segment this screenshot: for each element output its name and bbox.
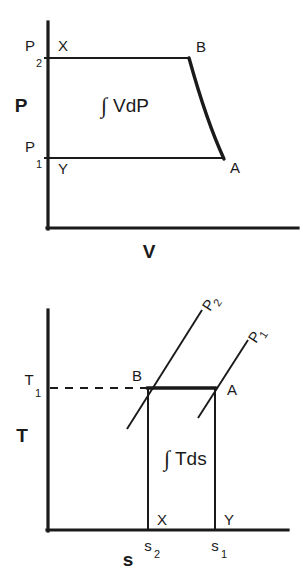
temperature-entropy-diagram: T 1 B A X Y s 2 s 1 P 2 [16, 292, 288, 570]
ts-tick-t1: T 1 [24, 371, 41, 399]
ts-point-y-label: Y [224, 511, 234, 528]
pv-y-axis-label: P [15, 95, 28, 116]
pv-x-axis-label: V [143, 241, 156, 262]
ts-integrand-text: Tds [175, 448, 207, 469]
ts-y-axis-label: T [16, 425, 28, 446]
pv-tick-p1-subscript: 1 [36, 158, 42, 170]
ts-tick-s2: s 2 [144, 537, 160, 560]
ts-isobar-p2-label: P 2 [198, 292, 224, 316]
pv-tick-p2-subscript: 2 [36, 57, 42, 69]
ts-point-a-label: A [227, 381, 237, 398]
pv-tick-p1: P 1 [25, 138, 42, 170]
ts-isobar-p1-label: P 1 [244, 324, 270, 348]
ts-tick-s2-base: s [144, 537, 152, 554]
pv-expansion-curve [189, 58, 224, 159]
figure-canvas: P 2 P 1 X Y B A P V ∫ VdP [0, 0, 303, 580]
ts-integral-sign: ∫ [162, 446, 172, 472]
ts-point-x-label: X [157, 511, 167, 528]
pv-integrand-text: VdP [113, 95, 149, 116]
thermodynamics-figure: P 2 P 1 X Y B A P V ∫ VdP [0, 0, 303, 580]
pv-point-a-label: A [230, 159, 240, 176]
ts-tick-s2-subscript: 2 [154, 548, 160, 560]
pv-tick-p1-base: P [25, 138, 35, 155]
ts-isobar-p1-line [198, 340, 248, 418]
ts-tick-t1-base: T [24, 371, 33, 388]
ts-area-integral-label: ∫ Tds [162, 446, 207, 472]
ts-tick-t1-subscript: 1 [35, 387, 41, 399]
pv-tick-p2-base: P [25, 37, 35, 54]
ts-tick-s1-subscript: 1 [221, 548, 227, 560]
pv-area-integral-label: ∫ VdP [99, 93, 149, 119]
ts-x-axis-label: s [123, 549, 134, 570]
ts-tick-s1: s 1 [211, 537, 227, 560]
pressure-volume-diagram: P 2 P 1 X Y B A P V ∫ VdP [15, 22, 298, 262]
pv-tick-p2: P 2 [25, 37, 42, 69]
pv-point-y-label: Y [58, 160, 68, 177]
pv-point-x-label: X [58, 37, 68, 54]
ts-tick-s1-base: s [211, 537, 219, 554]
pv-integral-sign: ∫ [99, 93, 109, 119]
ts-point-b-label: B [132, 367, 142, 384]
pv-point-b-label: B [196, 38, 206, 55]
